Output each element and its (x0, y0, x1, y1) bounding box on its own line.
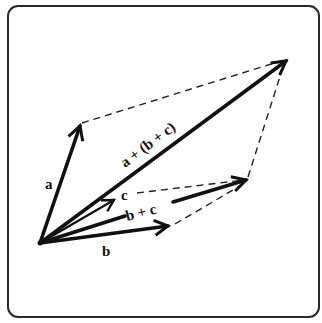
dashed-bc-to-sum (248, 64, 284, 177)
vector-sum-arrow (40, 61, 286, 243)
vector-addition-diagram: a b c b + c a + (b + c) (0, 0, 322, 323)
label-a: a (45, 176, 53, 192)
label-b: b (102, 243, 110, 259)
label-c: c (121, 187, 128, 203)
vectors (38, 61, 287, 246)
origin-point (38, 241, 43, 246)
vector-b-plus-c-arrow-end (173, 180, 246, 202)
label-b-plus-c: b + c (124, 201, 158, 224)
dashed-a-to-sum (82, 60, 284, 123)
